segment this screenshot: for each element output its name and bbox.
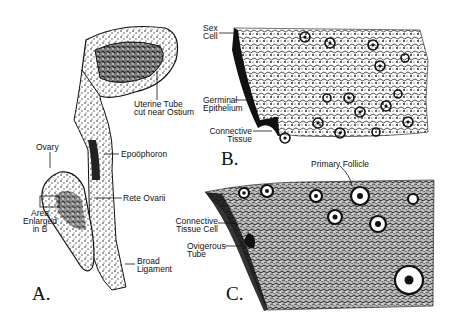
label-connective-tissue-cell: Connective Tissue Cell (150, 217, 218, 233)
panel-letter-c: C. (226, 283, 243, 305)
label-ovary: Ovary (36, 143, 59, 151)
label-uterine-tube-line2: cut near Ostium (134, 108, 194, 116)
label-sex-cell: Sex Cell (203, 24, 218, 40)
label-germinal-line2: Epithelium (203, 104, 243, 112)
label-ct-cell-line2: Tissue Cell (150, 225, 218, 233)
label-uterine-tube: Uterine Tube cut near Ostium (134, 100, 194, 116)
panel-letter-a: A. (32, 283, 50, 305)
label-connective-tissue: Connective Tissue (200, 127, 252, 143)
label-ovigerous-line2: Tube (187, 250, 226, 258)
label-area-line3: in B (20, 225, 60, 233)
label-broad-line2: Ligament (137, 265, 172, 273)
label-sex-cell-line2: Cell (203, 32, 218, 40)
panel-b-drawing (232, 28, 428, 143)
label-broad-ligament: Broad Ligament (137, 257, 172, 273)
label-epoophoron: Epoöphoron (121, 150, 167, 158)
label-rete-ovarii: Rete Ovarii (123, 194, 166, 202)
label-connective-line2: Tissue (200, 135, 252, 143)
panel-letter-b: B. (221, 148, 238, 170)
label-primary-follicle: Primary Follicle (311, 160, 369, 168)
label-area-enlarged: Area Enlarged in B (20, 209, 60, 233)
label-germinal-epithelium: Germinal Epithelium (203, 96, 243, 112)
label-ovigerous-tube: Ovigerous Tube (187, 242, 226, 258)
